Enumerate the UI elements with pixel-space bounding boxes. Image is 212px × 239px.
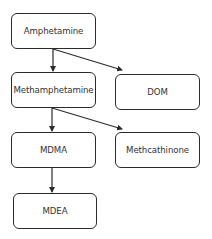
- edge-amphetamine-dom: [53, 49, 122, 70]
- node-label: DOM: [147, 87, 168, 97]
- edge-methamphetamine-methcathinone: [52, 108, 122, 129]
- node-mdma: MDMA: [11, 132, 96, 168]
- node-amphetamine: Amphetamine: [11, 13, 96, 49]
- node-methcathinone: Methcathinone: [115, 132, 200, 168]
- node-label: Amphetamine: [24, 26, 83, 36]
- diagram-canvas: Amphetamine Methamphetamine DOM MDMA Met…: [0, 0, 212, 239]
- node-label: Methamphetamine: [14, 85, 94, 95]
- node-dom: DOM: [115, 74, 200, 110]
- node-methamphetamine: Methamphetamine: [11, 72, 96, 108]
- node-label: Methcathinone: [126, 145, 189, 155]
- node-label: MDMA: [40, 145, 67, 155]
- node-mdea: MDEA: [13, 193, 97, 229]
- node-label: MDEA: [43, 206, 68, 216]
